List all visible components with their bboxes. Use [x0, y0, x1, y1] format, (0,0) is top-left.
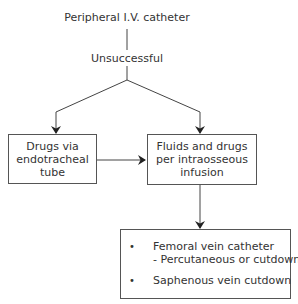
alternative-access-box: • Femoral vein catheter - Percutaneous o…	[120, 229, 291, 299]
branch-right-arrow	[127, 80, 200, 133]
branch-left-arrow	[56, 80, 127, 133]
intraosseous-infusion-text: Fluids and drugs per intraosseous infusi…	[156, 140, 248, 179]
endotracheal-drugs-text: Drugs via endotracheal tube	[16, 140, 89, 179]
intraosseous-infusion-box: Fluids and drugs per intraosseous infusi…	[147, 134, 257, 185]
femoral-line2: - Percutaneous or cutdown	[153, 253, 298, 266]
list-item-saphenous: • Saphenous vein cutdown	[129, 274, 282, 287]
list-item-femoral: • Femoral vein catheter - Percutaneous o…	[129, 240, 282, 266]
saphenous-text: Saphenous vein cutdown	[153, 274, 291, 287]
bullet-icon: •	[129, 240, 153, 266]
condition-label: Unsuccessful	[77, 52, 177, 65]
femoral-line1: Femoral vein catheter	[153, 240, 274, 253]
start-node-label: Peripheral I.V. catheter	[57, 11, 197, 24]
endotracheal-drugs-box: Drugs via endotracheal tube	[8, 134, 97, 184]
bullet-icon: •	[129, 274, 153, 287]
